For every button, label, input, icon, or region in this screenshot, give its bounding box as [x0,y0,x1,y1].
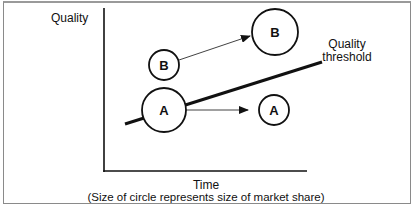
node-b-end-label: B [270,25,279,40]
node-b-start-label: B [159,58,168,73]
node-a-end-label: A [269,103,279,118]
y-axis-label: Quality [51,12,88,25]
arrow-b [179,36,250,60]
diagram-caption: (Size of circle represents size of marke… [0,191,412,204]
node-a-start-label: A [159,103,169,118]
threshold-label-line2: threshold [318,51,376,64]
threshold-label: Quality threshold [318,38,376,64]
